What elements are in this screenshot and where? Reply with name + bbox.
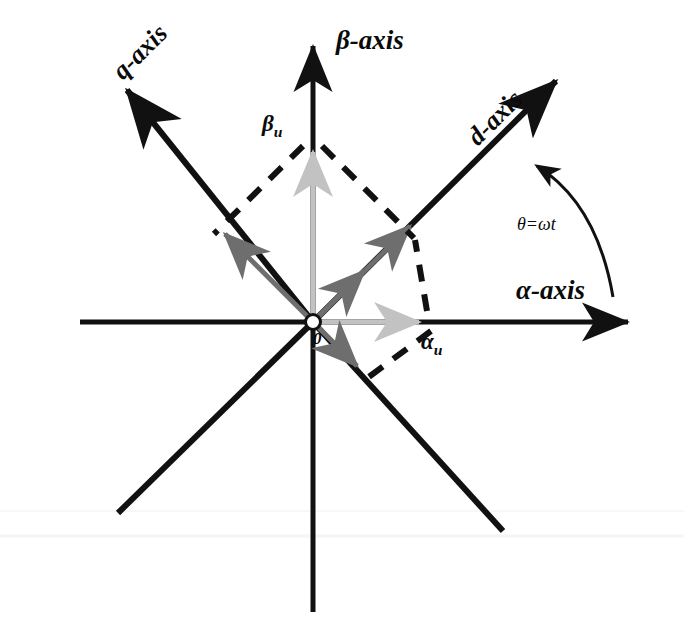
beta-axis-label: β-axis xyxy=(336,27,404,54)
q-component-vector xyxy=(225,234,313,322)
alpha-axis-label: α-axis xyxy=(516,277,585,304)
beta-u-base: β xyxy=(262,111,274,136)
origin-marker xyxy=(306,315,321,330)
theta-angle-label: θ=ωt xyxy=(517,215,556,233)
beta-u-label: βu xyxy=(262,112,282,139)
axis-diagram xyxy=(0,0,684,640)
alpha-u-label: αu xyxy=(421,330,442,357)
alpha-to-d-projection xyxy=(415,240,427,311)
beta-u-subscript: u xyxy=(274,123,283,140)
figure-canvas: β-axis α-axis q-axis d-axis βu αu 0 θ=ωt xyxy=(0,0,684,640)
alpha-u-subscript: u xyxy=(434,341,443,358)
beta-to-q-projection xyxy=(214,146,303,234)
beta-to-d-projection xyxy=(322,146,414,238)
origin-label: 0 xyxy=(313,330,322,347)
d-component-full-vector xyxy=(313,226,410,322)
scan-artifacts xyxy=(0,511,684,536)
alpha-u-base: α xyxy=(421,329,434,354)
projection-dashed-lines xyxy=(214,146,431,379)
